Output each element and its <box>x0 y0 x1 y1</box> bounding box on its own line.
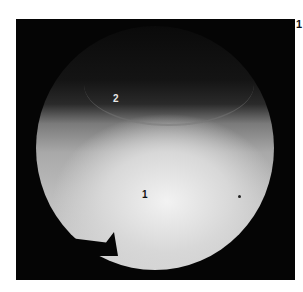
endoscopic-view <box>36 26 274 270</box>
annotation-label-2: 2 <box>113 93 119 104</box>
tissue-fold <box>84 44 254 126</box>
corner-mark: 1 <box>296 18 302 30</box>
annotation-label-1: 1 <box>142 189 148 200</box>
marker-dot <box>238 195 241 198</box>
